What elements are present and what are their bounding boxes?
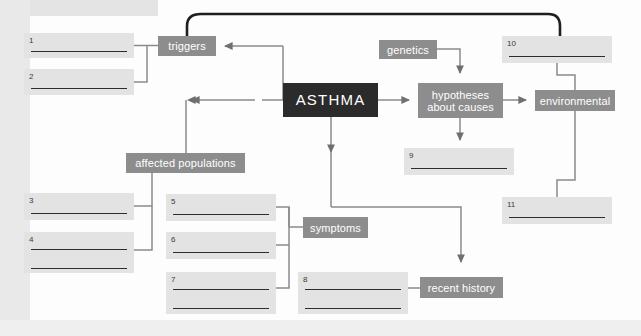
- node-environmental[interactable]: environmental: [535, 90, 615, 111]
- write-in-rule[interactable]: [173, 214, 269, 215]
- blank-number: 8: [303, 275, 307, 284]
- answer-blank-9[interactable]: 9: [404, 148, 514, 175]
- page-top-margin-tab: [30, 0, 158, 16]
- answer-blank-5[interactable]: 5: [166, 194, 276, 221]
- write-in-rule[interactable]: [305, 308, 401, 309]
- write-in-rule[interactable]: [173, 289, 269, 290]
- write-in-rule[interactable]: [31, 51, 127, 52]
- answer-blank-8[interactable]: 8: [298, 272, 408, 314]
- write-in-rule[interactable]: [305, 289, 401, 290]
- blank-number: 4: [29, 235, 33, 244]
- blank-number: 3: [29, 196, 33, 205]
- answer-blank-4[interactable]: 4: [24, 232, 134, 273]
- answer-blank-6[interactable]: 6: [166, 232, 276, 259]
- node-triggers[interactable]: triggers: [158, 36, 216, 56]
- answer-blank-10[interactable]: 10: [502, 36, 612, 63]
- page-bottom-margin: [0, 320, 641, 336]
- answer-blank-1[interactable]: 1: [24, 33, 134, 58]
- write-in-rule[interactable]: [173, 308, 269, 309]
- blank-number: 11: [507, 200, 515, 209]
- answer-blank-7[interactable]: 7: [166, 272, 276, 314]
- node-hypotheses[interactable]: hypotheses about causes: [418, 83, 503, 118]
- node-recent[interactable]: recent history: [420, 277, 503, 298]
- answer-blank-2[interactable]: 2: [24, 69, 134, 95]
- write-in-rule[interactable]: [173, 252, 269, 253]
- node-asthma[interactable]: ASTHMA: [283, 83, 378, 117]
- blank-number: 5: [171, 197, 175, 206]
- answer-blank-3[interactable]: 3: [24, 193, 134, 220]
- node-symptoms[interactable]: symptoms: [303, 217, 368, 238]
- node-affected[interactable]: affected populations: [126, 153, 245, 173]
- write-in-rule[interactable]: [509, 217, 605, 218]
- write-in-rule[interactable]: [411, 168, 507, 169]
- blank-number: 10: [507, 39, 516, 48]
- write-in-rule[interactable]: [509, 56, 605, 57]
- node-genetics[interactable]: genetics: [379, 40, 437, 59]
- write-in-rule[interactable]: [31, 213, 127, 214]
- write-in-rule[interactable]: [31, 249, 127, 250]
- write-in-rule[interactable]: [31, 268, 127, 269]
- answer-blank-11[interactable]: 11: [502, 197, 612, 224]
- blank-number: 9: [409, 151, 413, 160]
- blank-number: 6: [171, 235, 175, 244]
- write-in-rule[interactable]: [31, 88, 127, 89]
- blank-number: 7: [171, 275, 175, 284]
- blank-number: 2: [29, 72, 33, 81]
- blank-number: 1: [29, 36, 33, 45]
